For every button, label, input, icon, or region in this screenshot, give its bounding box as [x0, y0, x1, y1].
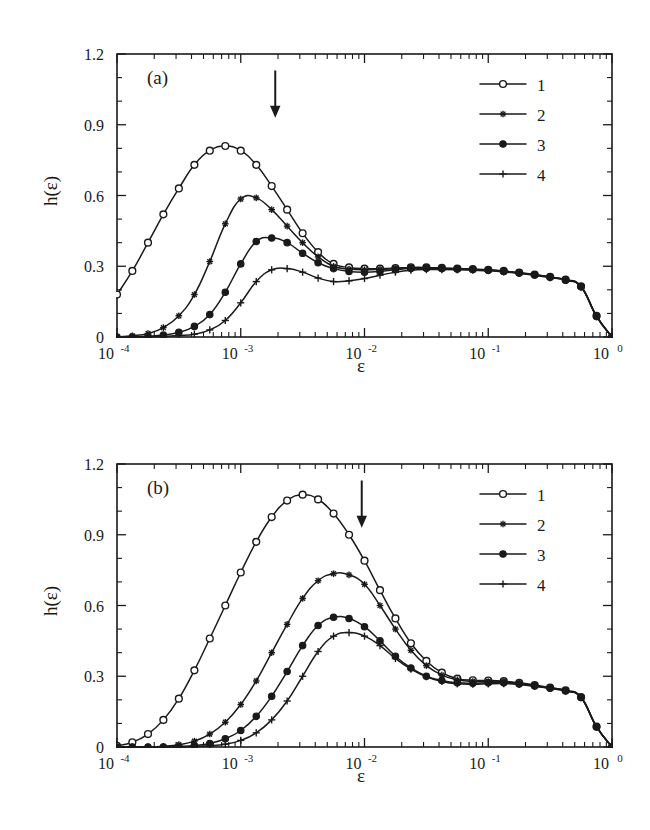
marker-open-circle — [299, 230, 306, 237]
panel-tag-b: (b) — [147, 477, 169, 499]
legend-label-2: 2 — [537, 516, 546, 535]
marker-open-circle — [392, 615, 399, 622]
legend-item-4[interactable]: 4 — [480, 166, 546, 185]
legend-item-3[interactable]: 3 — [480, 136, 546, 155]
plot-a: 10-410-310-210-110000.30.60.91.21234 — [0, 0, 650, 415]
marker-filled-circle — [299, 250, 305, 256]
marker-open-circle — [315, 496, 322, 503]
series-4 — [113, 629, 615, 751]
marker-open-circle — [237, 147, 244, 154]
y-axis-label-b: h(ε) — [40, 586, 62, 616]
marker-filled-circle — [330, 614, 336, 620]
marker-open-circle — [114, 291, 121, 298]
arrow-head — [357, 516, 367, 528]
legend-label-3: 3 — [537, 546, 546, 565]
marker-open-circle — [129, 268, 136, 275]
x-axis-label-b: ε — [357, 765, 365, 787]
x-tick-mantissa: 10 — [469, 755, 485, 772]
y-tick-label: 0 — [96, 329, 104, 346]
legend: 1234 — [480, 76, 546, 185]
y-tick-label: 1.2 — [84, 456, 104, 473]
legend: 1234 — [480, 486, 546, 595]
marker-open-circle — [237, 569, 244, 576]
legend-item-2[interactable]: 2 — [480, 106, 546, 125]
marker-filled-circle — [500, 141, 506, 147]
plot-b: 10-410-310-210-110000.30.60.91.21234 — [0, 410, 650, 830]
marker-open-circle — [253, 538, 260, 545]
x-tick-label: 10-1 — [469, 342, 501, 362]
y-tick-label: 0.9 — [84, 117, 104, 134]
marker-open-circle — [175, 185, 182, 192]
marker-open-circle — [500, 81, 507, 88]
x-tick-mantissa: 10 — [469, 345, 485, 362]
figure-container: h(ε) ε (a) 10-410-310-210-110000.30.60.9… — [0, 0, 650, 830]
marker-filled-circle — [253, 238, 259, 244]
marker-filled-circle — [315, 260, 321, 266]
marker-filled-circle — [238, 727, 244, 733]
plot-frame — [117, 464, 612, 747]
marker-open-circle — [145, 731, 152, 738]
marker-filled-circle — [238, 261, 244, 267]
x-tick-label: 100 — [593, 752, 623, 772]
marker-filled-circle — [284, 239, 290, 245]
series-line-3 — [117, 237, 612, 337]
x-tick-exponent: -2 — [368, 752, 377, 764]
series-line-4 — [117, 633, 612, 747]
x-tick-mantissa: 10 — [593, 755, 609, 772]
legend-item-4[interactable]: 4 — [480, 576, 546, 595]
series-line-2 — [117, 573, 612, 747]
marker-filled-circle — [346, 615, 352, 621]
marker-filled-circle — [284, 668, 290, 674]
marker-open-circle — [268, 514, 275, 521]
marker-open-circle — [222, 602, 229, 609]
marker-open-circle — [206, 147, 213, 154]
y-tick-label: 0.3 — [84, 668, 104, 685]
marker-filled-circle — [268, 235, 274, 241]
marker-filled-circle — [299, 642, 305, 648]
y-tick-label: 0.6 — [84, 598, 104, 615]
marker-open-circle — [361, 557, 368, 564]
marker-filled-circle — [253, 713, 259, 719]
x-tick-label: 10-3 — [222, 752, 254, 772]
marker-filled-circle — [207, 311, 213, 317]
legend-item-1[interactable]: 1 — [480, 76, 546, 95]
legend-label-4: 4 — [537, 576, 546, 595]
x-tick-exponent: -4 — [120, 752, 130, 764]
x-tick-exponent: -1 — [492, 342, 501, 354]
x-tick-mantissa: 10 — [593, 345, 609, 362]
x-tick-mantissa: 10 — [222, 755, 238, 772]
x-tick-mantissa: 10 — [98, 755, 114, 772]
marker-open-circle — [268, 183, 275, 190]
y-tick-label: 0.3 — [84, 258, 104, 275]
x-tick-mantissa: 10 — [222, 345, 238, 362]
x-tick-label: 10-3 — [222, 342, 254, 362]
marker-filled-circle — [361, 624, 367, 630]
arrow-annotation — [270, 71, 280, 118]
marker-filled-circle — [330, 265, 336, 271]
y-tick-label: 0.9 — [84, 527, 104, 544]
marker-open-circle — [253, 161, 260, 168]
x-tick-mantissa: 10 — [98, 345, 114, 362]
marker-open-circle — [346, 531, 353, 538]
marker-filled-circle — [268, 693, 274, 699]
y-axis-ticks — [117, 464, 612, 747]
marker-filled-circle — [191, 323, 197, 329]
legend-label-4: 4 — [537, 166, 546, 185]
legend-item-1[interactable]: 1 — [480, 486, 546, 505]
x-tick-exponent: -3 — [244, 752, 254, 764]
marker-open-circle — [175, 695, 182, 702]
marker-filled-circle — [222, 289, 228, 295]
legend-label-1: 1 — [537, 486, 546, 505]
x-tick-exponent: 0 — [617, 752, 623, 764]
legend-item-2[interactable]: 2 — [480, 516, 546, 535]
series-3 — [114, 235, 615, 340]
x-axis-ticks — [117, 464, 612, 747]
marker-open-circle — [160, 211, 167, 218]
series-2 — [114, 195, 616, 341]
x-tick-exponent: -2 — [368, 342, 377, 354]
y-tick-label: 1.2 — [84, 46, 104, 63]
legend-item-3[interactable]: 3 — [480, 546, 546, 565]
marker-open-circle — [222, 143, 229, 150]
marker-filled-circle — [346, 268, 352, 274]
legend-label-1: 1 — [537, 76, 546, 95]
